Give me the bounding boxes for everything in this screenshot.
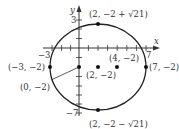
point-left-vertex: [48, 65, 52, 69]
y-axis-label: y: [69, 5, 75, 15]
point-right-vertex: [144, 65, 148, 69]
leader-line: [51, 67, 79, 80]
x-axis-label: x: [154, 36, 159, 46]
y-axis-arrow-icon: [77, 5, 82, 12]
label-focus-left: (0, −2): [20, 82, 50, 92]
point-focus-left: [77, 65, 81, 69]
label-left-vertex: (−3, −2): [8, 62, 45, 72]
y-axis: [76, 5, 82, 116]
y-tick-3: 3: [71, 15, 76, 25]
points: [48, 22, 148, 112]
label-right-vertex: (7, −2): [149, 62, 179, 72]
x-axis-arrow-icon: [153, 46, 160, 51]
point-top-vertex: [96, 22, 100, 26]
label-center: (2, −2): [86, 70, 116, 80]
point-bottom-vertex: [96, 108, 100, 112]
x-tick-neg3: −3: [38, 50, 51, 60]
ellipse-diagram: y x 3 −7 −3 7 (2, −2 + √21) (2, −2 − √21…: [0, 0, 179, 129]
point-focus-right: [115, 65, 119, 69]
label-focus-right: (4, −2): [109, 53, 139, 63]
point-center: [96, 65, 100, 69]
label-bottom-vertex: (2, −2 − √21): [89, 119, 148, 129]
x-tick-7: 7: [146, 50, 151, 60]
y-tick-neg7: −7: [66, 108, 79, 118]
label-top-vertex: (2, −2 + √21): [89, 9, 148, 19]
